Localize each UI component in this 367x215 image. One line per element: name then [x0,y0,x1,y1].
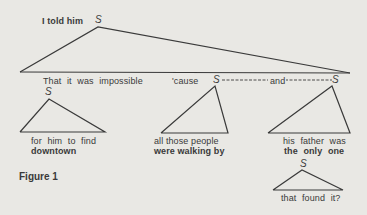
middle-subtree-line-2: were walking by [154,146,225,156]
left-subtree-line-2: downtown [31,146,76,156]
root-prefix-text: I told him [42,16,83,26]
syntax-tree-diagram: I told him S That it was impossible 'cau… [0,0,367,215]
child-subtree-text: that found it? [281,193,340,203]
figure-caption: Figure 1 [19,171,58,182]
root-triangle [20,27,350,73]
middle-subtree-triangle [161,86,228,133]
right-subtree-line-2: the only one [284,146,344,156]
right-subtree-line-1: his father was [283,136,346,146]
main-clause-text: That it was impossible [43,76,143,86]
middle-subtree-line-1: all those people [154,136,219,146]
tree-lines [0,0,367,215]
left-subtree-triangle [20,99,105,132]
conjunction-cause: 'cause [172,76,198,86]
right-subtree-triangle [268,86,350,133]
root-triangle-base [20,72,350,73]
child-node-label: S [300,159,307,169]
node-b-label: S [332,75,339,85]
root-node-label: S [95,15,102,25]
child-subtree-triangle [273,170,343,190]
left-node-label: S [45,87,52,97]
left-subtree-line-1: for him to find [31,136,96,146]
node-a-label: S [213,75,220,85]
conjunction-and: and [269,76,286,86]
